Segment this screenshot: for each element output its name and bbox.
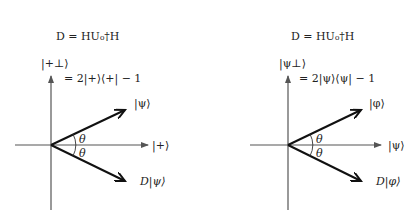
right-theta-lower: θ — [316, 147, 323, 160]
left-psi-label: |ψ⟩ — [134, 97, 151, 111]
right-diagram: |ψ⊥⟩ |ψ⟩ |φ⟩ D|φ⟩ θ θ — [250, 57, 405, 210]
right-dphi-label: D|φ⟩ — [375, 175, 401, 189]
left-dpsi-label: D|ψ⟩ — [139, 175, 165, 189]
left-psi-vector — [51, 110, 125, 145]
left-horizontal-axis-label: |+⟩ — [152, 139, 169, 153]
right-phi-label: |φ⟩ — [369, 97, 385, 111]
left-vertical-axis-label: |+⊥⟩ — [41, 57, 69, 71]
right-vertical-axis-label: |ψ⊥⟩ — [279, 57, 306, 71]
right-horizontal-axis-label: |ψ⟩ — [388, 139, 405, 153]
left-theta-upper: θ — [79, 133, 86, 146]
right-phi-vector — [288, 110, 361, 145]
right-theta-upper: θ — [316, 133, 323, 146]
left-dpsi-vector — [51, 145, 125, 181]
left-theta-lower: θ — [79, 147, 86, 160]
left-diagram: |+⊥⟩ |+⟩ |ψ⟩ D|ψ⟩ θ θ — [15, 57, 169, 210]
right-dphi-vector — [288, 145, 361, 181]
diagrams: |+⊥⟩ |+⟩ |ψ⟩ D|ψ⟩ θ θ |ψ⊥⟩ |ψ⟩ |φ⟩ D|φ⟩ … — [0, 0, 410, 219]
